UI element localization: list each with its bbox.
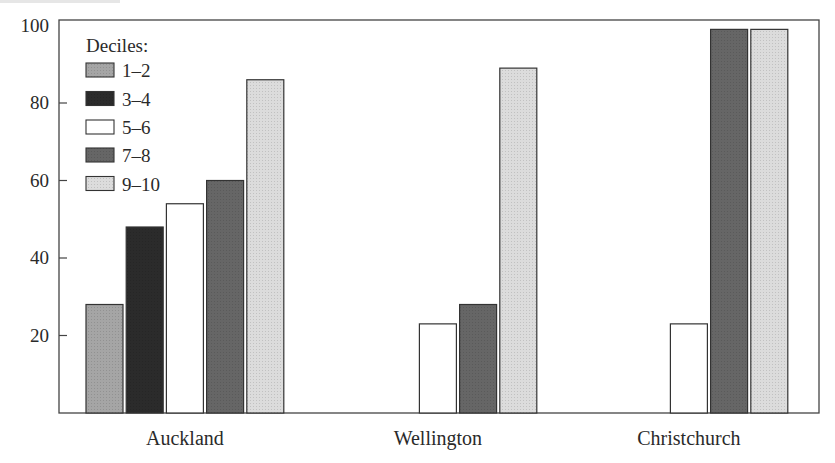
legend-label: 7–8	[122, 145, 151, 166]
x-category-label: Christchurch	[637, 427, 740, 449]
y-tick-label: 20	[30, 325, 49, 346]
legend-label: 5–6	[122, 117, 151, 138]
bar-chart: 20406080100AucklandWellingtonChristchurc…	[0, 0, 835, 463]
legend-swatch-3	[86, 148, 114, 162]
bar-auckland-4	[247, 80, 284, 413]
bar-auckland-3	[207, 181, 244, 414]
legend-label: 3–4	[122, 89, 151, 110]
legend-title: Deciles:	[86, 35, 148, 56]
legend-swatch-1	[86, 92, 114, 106]
bar-wellington-4	[500, 68, 537, 413]
legend-label: 9–10	[122, 174, 160, 195]
legend-swatch-0	[86, 63, 114, 77]
legend-swatch-4	[86, 177, 114, 191]
bar-auckland-2	[166, 204, 203, 413]
y-tick-label: 40	[30, 247, 49, 268]
bar-christchurch-3	[711, 29, 748, 413]
x-category-label: Wellington	[394, 427, 482, 450]
bar-christchurch-2	[670, 324, 707, 413]
y-tick-label: 60	[30, 170, 49, 191]
bar-auckland-1	[126, 227, 163, 413]
y-tick-label: 80	[30, 92, 49, 113]
bar-wellington-3	[460, 305, 497, 414]
bar-auckland-0	[86, 305, 123, 414]
bar-wellington-2	[419, 324, 456, 413]
legend-label: 1–2	[122, 60, 151, 81]
legend-swatch-2	[86, 120, 114, 134]
y-tick-label: 100	[21, 15, 50, 36]
x-category-label: Auckland	[146, 427, 224, 449]
bar-christchurch-4	[751, 29, 788, 413]
